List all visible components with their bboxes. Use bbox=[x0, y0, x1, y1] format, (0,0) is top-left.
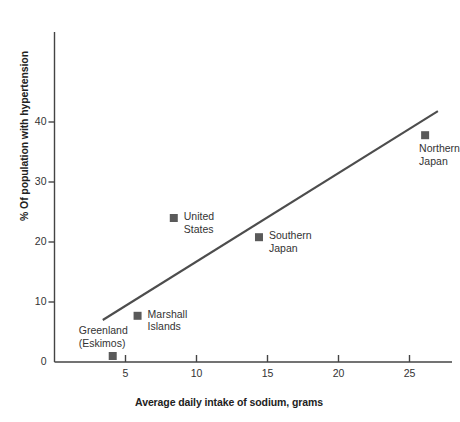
y-axis-title: % Of population with hypertension bbox=[18, 16, 30, 256]
x-tick-label: 10 bbox=[184, 367, 210, 379]
x-tick-label: 15 bbox=[255, 367, 281, 379]
data-point-marker bbox=[170, 214, 178, 222]
x-tick-label: 25 bbox=[397, 367, 423, 379]
data-point-marker bbox=[134, 312, 142, 320]
data-point-label: Northern Japan bbox=[419, 142, 460, 167]
y-tick-label: 30 bbox=[21, 175, 47, 187]
data-point-marker bbox=[421, 131, 429, 139]
data-point-label: Marshall Islands bbox=[148, 308, 188, 333]
data-point-marker bbox=[255, 233, 263, 241]
data-point-marker bbox=[109, 352, 117, 360]
y-tick-label: 10 bbox=[21, 295, 47, 307]
y-tick-label: 0 bbox=[21, 355, 47, 367]
y-tick-label: 40 bbox=[21, 115, 47, 127]
data-point-label: Greenland (Eskimos) bbox=[79, 324, 128, 349]
x-axis-title: Average daily intake of sodium, grams bbox=[0, 396, 458, 408]
data-point-label: Southern Japan bbox=[269, 229, 312, 254]
x-tick-label: 5 bbox=[113, 367, 139, 379]
data-point-label: United States bbox=[184, 210, 214, 235]
x-tick-label: 20 bbox=[326, 367, 352, 379]
trend-line bbox=[103, 111, 438, 320]
y-tick-label: 20 bbox=[21, 235, 47, 247]
